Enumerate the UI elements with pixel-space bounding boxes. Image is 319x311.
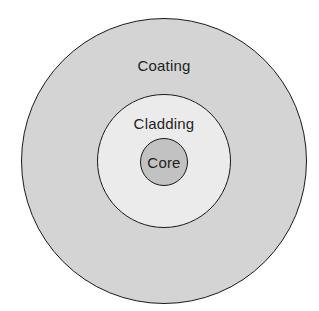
fiber-cross-section-diagram: Coating Cladding Core: [0, 0, 319, 311]
cladding-label: Cladding: [134, 115, 195, 132]
core-label: Core: [147, 154, 180, 171]
coating-label: Coating: [137, 57, 190, 74]
